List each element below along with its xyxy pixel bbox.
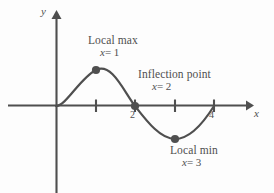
y-axis-label: y [41,6,46,18]
annotation-inflection-point-value: = 2 [157,80,171,92]
annotation-local-min-equation: x= 3 [182,157,218,169]
annotation-inflection-point-equation: x= 2 [152,81,211,93]
annotation-local-max-title: Local max [88,34,138,46]
x-tick-label-2: 2 [130,110,135,121]
plot-canvas [0,0,274,193]
annotation-local-max: Local max x= 1 [88,34,138,59]
annotation-local-max-equation: x= 1 [100,47,138,59]
point-local-max [92,66,100,74]
annotation-local-min-title: Local min [170,144,218,156]
x-axis-label: x [254,108,259,120]
point-local-min [171,135,179,143]
y-axis-arrowhead [52,10,62,19]
x-axis-arrowhead [246,101,254,111]
x-tick-label-4: 4 [209,110,214,121]
annotation-local-min: Local min x= 3 [170,144,218,169]
calculus-curve-figure: y x 2 4 Local max x= 1 Inflection point … [0,0,274,193]
annotation-local-max-value: = 1 [105,46,119,58]
annotation-inflection-point: Inflection point x= 2 [138,68,211,93]
annotation-inflection-point-title: Inflection point [138,68,211,80]
annotation-local-min-value: = 3 [187,156,201,168]
